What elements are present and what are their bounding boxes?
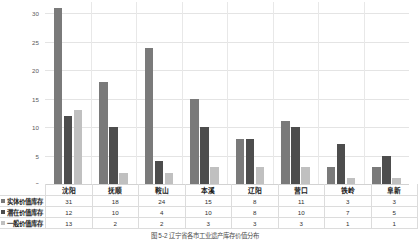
- table-cell-value: 11: [278, 196, 325, 207]
- table-row: 实体价值库存3118241581133: [0, 196, 418, 207]
- table-cell-value: 2: [92, 218, 139, 229]
- legend-entry: 一般价值库存: [0, 218, 46, 229]
- table-cell-value: 3: [278, 218, 325, 229]
- table-cell-value: 13: [46, 218, 93, 229]
- data-table: 沈阳抚顺鞍山本溪辽阳营口铁岭阜新实体价值库存3118241581133潜在价值库…: [0, 184, 410, 229]
- legend-label: 实体价值库存: [7, 198, 44, 205]
- x-axis-category-label: 营口: [278, 184, 325, 196]
- bar-group: [273, 2, 319, 184]
- x-axis-category-label: 抚顺: [92, 184, 139, 196]
- table-cell-value: 8: [232, 196, 279, 207]
- bar: [119, 173, 128, 184]
- bar: [99, 82, 108, 184]
- bar: [281, 121, 290, 184]
- bar: [337, 144, 346, 184]
- data-table-body: 沈阳抚顺鞍山本溪辽阳营口铁岭阜新实体价值库存3118241581133潜在价值库…: [0, 184, 418, 229]
- y-axis-tick-label: 20: [32, 67, 39, 74]
- x-axis-category-label: 沈阳: [46, 184, 93, 196]
- plot-area: 051015202530: [0, 2, 410, 192]
- bar: [291, 127, 300, 184]
- table-cell-value: 7: [325, 207, 372, 218]
- bar: [372, 167, 381, 184]
- table-cell-value: 10: [92, 207, 139, 218]
- table-cell-value: 1: [325, 218, 372, 229]
- table-cell-value: 2: [139, 218, 186, 229]
- bar: [54, 8, 63, 184]
- bar: [64, 116, 73, 184]
- table-cell-value: 15: [185, 196, 232, 207]
- legend-label: 一般价值库存: [7, 220, 44, 227]
- x-axis-category-label: 阜新: [371, 184, 418, 196]
- y-axis-tick-label: 30: [32, 10, 39, 17]
- y-axis-tick-label: 5: [35, 152, 39, 159]
- bar-group: [45, 2, 91, 184]
- table-cell-value: 10: [278, 207, 325, 218]
- table-cell-value: 4: [139, 207, 186, 218]
- bar: [327, 167, 336, 184]
- legend-label: 潜在价值库存: [7, 209, 44, 216]
- table-cell-value: 12: [46, 207, 93, 218]
- table-cell-value: 3: [371, 196, 418, 207]
- table-corner-cell: [0, 184, 46, 196]
- bar: [382, 156, 391, 184]
- bar: [301, 167, 310, 184]
- bars-layer: [45, 2, 409, 184]
- x-axis-category-label: 鞍山: [139, 184, 186, 196]
- legend-entry: 潜在价值库存: [0, 207, 46, 218]
- table-row: 沈阳抚顺鞍山本溪辽阳营口铁岭阜新: [0, 184, 418, 196]
- x-axis-category-label: 辽阳: [232, 184, 279, 196]
- bar: [256, 167, 265, 184]
- bar: [165, 173, 174, 184]
- x-axis-category-label: 本溪: [185, 184, 232, 196]
- chart-data-table: 沈阳抚顺鞍山本溪辽阳营口铁岭阜新实体价值库存3118241581133潜在价值库…: [0, 184, 418, 229]
- table-cell-value: 31: [46, 196, 93, 207]
- bar: [210, 167, 219, 184]
- bar: [155, 161, 164, 184]
- bar: [74, 110, 83, 184]
- bar: [190, 99, 199, 184]
- table-row: 潜在价值库存121041081075: [0, 207, 418, 218]
- legend-swatch-icon: [1, 221, 5, 225]
- bar: [246, 139, 255, 185]
- y-axis-tick-label: 10: [32, 124, 39, 131]
- table-row: 一般价值库存132233311: [0, 218, 418, 229]
- bar: [200, 127, 209, 184]
- y-axis: 051015202530: [0, 2, 45, 184]
- legend-swatch-icon: [1, 199, 5, 203]
- y-axis-tick-label: 15: [32, 95, 39, 102]
- legend-entry: 实体价值库存: [0, 196, 46, 207]
- table-cell-value: 3: [232, 218, 279, 229]
- table-cell-value: 3: [325, 196, 372, 207]
- bar: [236, 139, 245, 185]
- bar-group: [364, 2, 410, 184]
- legend-swatch-icon: [1, 210, 5, 214]
- table-cell-value: 5: [371, 207, 418, 218]
- table-cell-value: 10: [185, 207, 232, 218]
- table-cell-value: 1: [371, 218, 418, 229]
- table-cell-value: 3: [185, 218, 232, 229]
- bar-group: [136, 2, 182, 184]
- bar-group: [182, 2, 228, 184]
- table-cell-value: 24: [139, 196, 186, 207]
- bar-group: [318, 2, 364, 184]
- table-cell-value: 18: [92, 196, 139, 207]
- y-axis-tick-label: 25: [32, 38, 39, 45]
- bar: [145, 48, 154, 185]
- bar: [109, 127, 118, 184]
- figure-caption: 图 5-2 辽宁省各市工业遗产库存价值分布: [0, 229, 410, 242]
- x-axis-category-label: 铁岭: [325, 184, 372, 196]
- table-cell-value: 8: [232, 207, 279, 218]
- bar-group: [227, 2, 273, 184]
- bar-group: [91, 2, 137, 184]
